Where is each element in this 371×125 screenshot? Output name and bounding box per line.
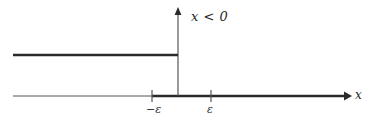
y-axis-arrowhead xyxy=(175,7,182,15)
tick-label-positive-epsilon: ε xyxy=(207,104,213,115)
step-function-figure: x < 0 x −ε ε xyxy=(0,0,371,125)
figure-canvas xyxy=(0,0,371,125)
x-axis-label: x xyxy=(355,89,362,101)
condition-label: x < 0 xyxy=(191,10,228,23)
tick-label-negative-epsilon: −ε xyxy=(146,104,161,115)
x-axis-arrowhead xyxy=(344,92,352,101)
